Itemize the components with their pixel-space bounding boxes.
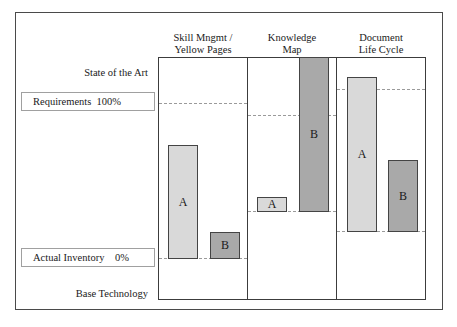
bar-label: A (268, 197, 277, 212)
state-of-the-art-label: State of the Art (20, 67, 148, 79)
col2-bar-a: A (257, 197, 287, 212)
col1-bar-b: B (210, 232, 240, 259)
bar-label: B (221, 238, 229, 253)
bar-label: B (399, 189, 407, 204)
requirements-level-box: Requirements 100% (21, 92, 155, 111)
col3-bar-b: B (388, 160, 418, 232)
column-title-knowledge-map: Knowledge Map (247, 32, 337, 56)
bar-label: A (358, 147, 367, 162)
column-title-skill-mngmt: Skill Mngmt / Yellow Pages (158, 32, 248, 56)
actual-inventory-level-box: Actual Inventory 0% (21, 248, 155, 267)
col1-bar-a: A (168, 145, 198, 259)
base-technology-label: Base Technology (20, 288, 148, 300)
col3-bar-a: A (347, 77, 377, 232)
column-title-document-life-cycle: Document Life Cycle (336, 32, 426, 56)
col2-bar-b: B (299, 57, 329, 212)
bar-label: B (310, 127, 318, 142)
bar-label: A (179, 195, 188, 210)
col1-target-dashed-line (159, 103, 247, 104)
